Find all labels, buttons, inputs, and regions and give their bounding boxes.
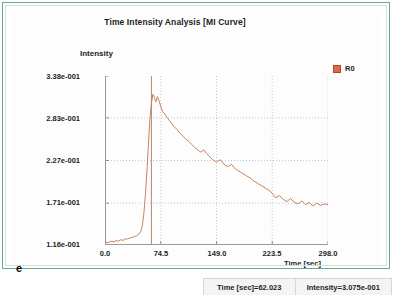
x-tick-label-3: 223.5 xyxy=(252,249,292,258)
intensity-curve-plot xyxy=(105,76,328,245)
y-axis-title: Intensity xyxy=(80,49,113,58)
y-tick-label-1: 1.71e-001 xyxy=(28,198,80,207)
y-tick-label-3: 2.83e-001 xyxy=(28,114,80,123)
y-tick-label-2: 2.27e-001 xyxy=(28,156,80,165)
status-intensity-readout: Intensity=3.075e-001 xyxy=(296,279,392,295)
x-tick-label-2: 149.0 xyxy=(197,249,237,258)
x-axis-title: Time [sec] xyxy=(284,259,321,268)
x-tick-label-1: 74.5 xyxy=(141,249,181,258)
grid-lines xyxy=(105,76,328,245)
status-bar: Time [sec]=62.023 Intensity=3.075e-001 xyxy=(203,278,392,295)
legend-swatch-r0 xyxy=(333,65,341,73)
chart-panel: Time Intensity Analysis [MI Curve] Inten… xyxy=(10,9,382,265)
chart-legend: R0 xyxy=(333,64,355,73)
figure-frame: Time Intensity Analysis [MI Curve] Inten… xyxy=(2,2,390,269)
x-tick-label-0: 0.0 xyxy=(85,249,125,258)
status-time-readout: Time [sec]=62.023 xyxy=(204,279,296,295)
y-tick-label-0: 1.16e-001 xyxy=(28,240,80,249)
y-tick-label-4: 3.38e-001 xyxy=(28,72,80,81)
plot-area[interactable] xyxy=(105,76,328,245)
x-tick-label-4: 298.0 xyxy=(308,249,348,258)
panel-letter: e xyxy=(16,262,22,274)
legend-label-r0: R0 xyxy=(345,64,355,73)
chart-title: Time Intensity Analysis [MI Curve] xyxy=(10,17,340,27)
